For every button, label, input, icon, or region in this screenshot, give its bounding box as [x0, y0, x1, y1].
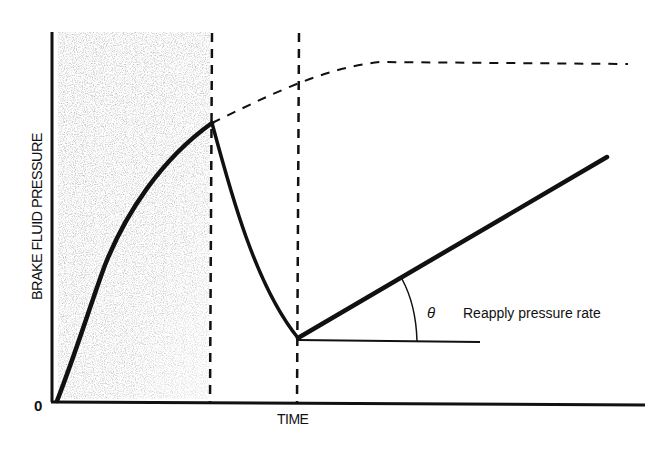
phase-boundary-2 [297, 33, 299, 402]
pressure-diagram: θ Reapply pressure rate TIME 0 BRAKE FLU… [0, 0, 672, 449]
unrestricted-pressure-curve [212, 62, 628, 123]
origin-label: 0 [34, 397, 42, 414]
phase-boundary-1 [210, 33, 212, 402]
apply-phase-shading [58, 32, 210, 399]
angle-arc [402, 279, 417, 341]
y-axis-label: BRAKE FLUID PRESSURE [29, 132, 45, 300]
release-pressure-curve [212, 123, 298, 338]
angle-symbol: θ [427, 304, 435, 321]
x-axis-label: TIME [277, 411, 309, 427]
reference-line [298, 340, 480, 342]
reapply-annotation: Reapply pressure rate [463, 305, 601, 321]
x-axis [51, 402, 645, 405]
